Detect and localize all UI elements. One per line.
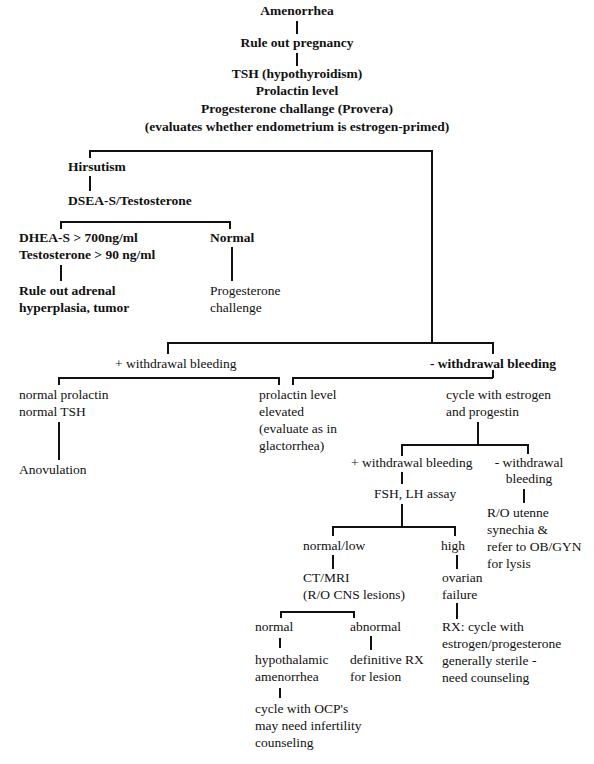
- connector: [477, 422, 479, 444]
- connector: [60, 221, 62, 229]
- connector: [58, 377, 279, 379]
- node-neg-withdrawal-3: bleeding: [484, 471, 574, 487]
- node-pos-withdrawal-2: + withdrawal bleeding: [351, 455, 473, 471]
- node-ro-synechia-2: synechia &: [487, 522, 548, 538]
- connector: [370, 636, 372, 650]
- connector: [456, 603, 458, 619]
- node-progesterone-challenge-2: Progesterone: [210, 283, 280, 299]
- connector: [279, 688, 281, 698]
- node-normal-hirsutism: Normal: [210, 230, 254, 246]
- connector: [167, 342, 169, 354]
- connector: [231, 247, 233, 281]
- node-dhea-elevated: DHEA-S > 700ng/ml: [19, 230, 138, 246]
- connector: [296, 21, 298, 34]
- connector: [353, 611, 355, 618]
- node-prolactin-elevated-3: (evaluate as in: [259, 421, 337, 437]
- node-definitive-rx: definitive RX: [350, 652, 424, 668]
- node-prolactin-elevated-4: glactorrhea): [259, 438, 324, 454]
- node-abnormal: abnormal: [350, 619, 401, 635]
- connector: [167, 342, 493, 344]
- node-rx-cycle: RX: cycle with: [442, 619, 524, 635]
- connector: [401, 444, 528, 446]
- node-prolactin: Prolactin level: [147, 83, 447, 99]
- connector: [492, 342, 494, 354]
- node-ct-mri: CT/MRI: [303, 570, 350, 586]
- connector: [89, 150, 91, 158]
- node-progesterone-challenge: Progesterone challange (Provera): [147, 101, 447, 117]
- node-fsh-lh: FSH, LH assay: [374, 486, 456, 502]
- node-rule-out-adrenal-2: hyperplasia, tumor: [19, 300, 129, 316]
- node-dsea-testosterone: DSEA-S/Testosterone: [68, 193, 192, 209]
- connector: [332, 555, 334, 569]
- node-progesterone-challenge-3: challenge: [210, 300, 262, 316]
- node-rx-cycle-4: need counseling: [442, 670, 529, 686]
- node-neg-withdrawal-2: - withdrawal: [484, 455, 574, 471]
- node-hypothalamic: hypothalamic: [255, 652, 328, 668]
- node-cycle-estrogen: cycle with estrogen: [446, 387, 551, 403]
- connector: [332, 526, 334, 536]
- connector: [401, 504, 403, 526]
- node-ro-synechia-3: refer to OB/GYN: [487, 539, 581, 555]
- connector: [89, 176, 91, 191]
- node-rule-out-pregnancy: Rule out pregnancy: [217, 35, 377, 51]
- node-normal: normal: [255, 619, 293, 635]
- node-definitive-rx-2: for lesion: [350, 669, 401, 685]
- node-normal-tsh: normal TSH: [19, 404, 86, 420]
- connector: [332, 526, 455, 528]
- connector: [58, 377, 60, 385]
- connector: [280, 611, 354, 613]
- connector: [296, 53, 298, 66]
- node-tsh: TSH (hypothyroidism): [147, 66, 447, 82]
- connector: [292, 377, 493, 379]
- node-cycle-ocp: cycle with OCP's: [255, 701, 348, 717]
- node-pos-withdrawal: + withdrawal bleeding: [115, 356, 237, 372]
- connector: [454, 526, 456, 536]
- node-anovulation: Anovulation: [19, 462, 87, 478]
- node-cycle-estrogen-2: and progestin: [446, 404, 519, 420]
- node-rule-out-adrenal: Rule out adrenal: [19, 283, 116, 299]
- node-ro-synechia: R/O utenne: [487, 505, 549, 521]
- node-cycle-ocp-3: counseling: [255, 735, 314, 751]
- node-high: high: [441, 538, 465, 554]
- node-rx-cycle-3: generally sterile -: [442, 653, 536, 669]
- node-ro-synechia-4: for lysis: [487, 556, 531, 572]
- connector: [278, 377, 280, 385]
- node-hypothalamic-2: amenorrhea: [255, 669, 319, 685]
- node-ovarian-failure: ovarian: [442, 570, 482, 586]
- connector: [58, 422, 60, 460]
- node-normal-prolactin: normal prolactin: [19, 387, 109, 403]
- node-rx-cycle-2: estrogen/progesterone: [442, 636, 561, 652]
- node-ovarian-failure-2: failure: [442, 587, 477, 603]
- connector: [280, 611, 282, 618]
- node-hirsutism: Hirsutism: [68, 159, 126, 175]
- connector: [229, 221, 231, 229]
- connector: [523, 489, 525, 503]
- node-amenorrhea: Amenorrhea: [247, 3, 347, 19]
- connector: [431, 150, 433, 342]
- node-cycle-ocp-2: may need infertility: [255, 718, 361, 734]
- node-testosterone-elevated: Testosterone > 90 ng/ml: [19, 247, 155, 263]
- node-evaluates: (evaluates whether endometrium is estrog…: [100, 119, 494, 135]
- connector: [89, 150, 432, 152]
- node-prolactin-elevated-2: elevated: [259, 404, 304, 420]
- node-ct-mri-2: (R/O CNS lesions): [303, 587, 405, 603]
- connector: [401, 472, 403, 484]
- connector: [456, 555, 458, 569]
- connector: [292, 377, 294, 385]
- node-prolactin-elevated: prolactin level: [259, 387, 337, 403]
- connector: [60, 221, 230, 223]
- connector: [279, 638, 281, 648]
- connector: [527, 444, 529, 454]
- node-normal-low: normal/low: [303, 538, 365, 554]
- connector: [60, 265, 62, 281]
- connector: [492, 370, 494, 378]
